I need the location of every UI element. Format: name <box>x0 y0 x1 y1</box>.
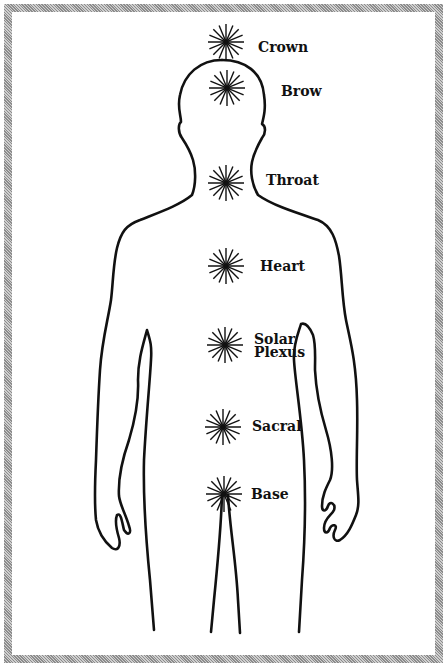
heart-chakra-icon <box>208 248 244 284</box>
label-base: Base <box>251 488 289 501</box>
chakra-markers <box>0 0 447 667</box>
label-sacral: Sacral <box>252 420 301 433</box>
crown-chakra-icon <box>208 24 244 60</box>
brow-chakra-icon <box>209 70 245 106</box>
base-chakra-icon <box>206 476 242 512</box>
label-solar-plexus: Solar Plexus <box>254 333 305 359</box>
solar-plexus-chakra-icon <box>207 327 243 363</box>
sacral-chakra-icon <box>205 409 241 445</box>
diagram-frame: Crown Brow Throat Heart Solar Plexus Sac… <box>0 0 447 667</box>
label-throat: Throat <box>266 174 319 187</box>
label-heart: Heart <box>260 260 305 273</box>
label-brow: Brow <box>281 85 322 98</box>
throat-chakra-icon <box>208 165 244 201</box>
label-solar-line2: Plexus <box>254 346 305 359</box>
label-crown: Crown <box>258 41 308 54</box>
